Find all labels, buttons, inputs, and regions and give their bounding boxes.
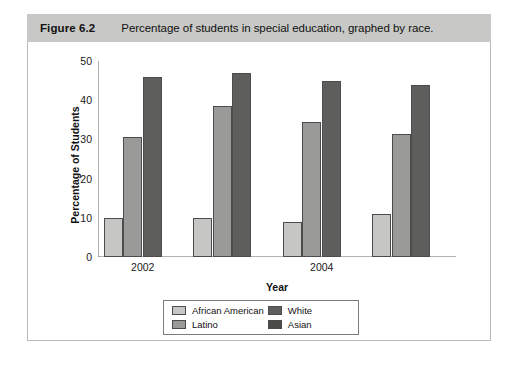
bar	[143, 77, 162, 257]
legend-item: White	[268, 305, 352, 316]
y-axis-tick-labels: 01020304050	[62, 61, 92, 257]
chart-legend: African AmericanWhiteLatinoAsian	[163, 300, 359, 335]
bar	[302, 122, 321, 257]
bar	[322, 81, 341, 257]
legend-label: African American	[192, 305, 264, 316]
figure-caption-band: Figure 6.2 Percentage of students in spe…	[27, 14, 491, 42]
x-axis-title: Year	[98, 281, 456, 293]
bar	[411, 85, 430, 257]
bar	[104, 218, 123, 257]
y-tick-label: 30	[80, 133, 92, 145]
y-tick-label: 50	[80, 55, 92, 67]
legend-swatch-icon	[268, 320, 282, 329]
y-tick-label: 0	[86, 251, 92, 263]
x-tick-label: 2004	[310, 261, 333, 273]
bar	[372, 214, 391, 257]
bar	[193, 218, 212, 257]
legend-item: African American	[172, 305, 264, 316]
y-tick-label: 20	[80, 173, 92, 185]
bar	[213, 106, 232, 257]
plot-area	[98, 61, 456, 257]
figure-caption-text: Percentage of students in special educat…	[121, 22, 433, 34]
bar	[123, 137, 142, 257]
legend-item: Latino	[172, 319, 264, 330]
figure-number-label: Figure 6.2	[40, 22, 95, 34]
legend-label: White	[288, 305, 312, 316]
legend-swatch-icon	[172, 320, 186, 329]
legend-swatch-icon	[172, 306, 186, 315]
y-tick-label: 40	[80, 94, 92, 106]
bar	[232, 73, 251, 257]
legend-label: Asian	[288, 319, 312, 330]
y-tick-label: 10	[80, 212, 92, 224]
bars-layer	[98, 61, 456, 257]
figure-body-panel: Percentage of Students 01020304050 20022…	[27, 42, 491, 341]
bar	[392, 134, 411, 257]
x-tick-label: 2002	[131, 261, 154, 273]
x-axis-tick-labels: 20022004	[98, 261, 456, 277]
legend-label: Latino	[192, 319, 218, 330]
legend-swatch-icon	[268, 306, 282, 315]
figure-container: Figure 6.2 Percentage of students in spe…	[27, 14, 491, 341]
bar	[283, 222, 302, 257]
legend-item: Asian	[268, 319, 352, 330]
